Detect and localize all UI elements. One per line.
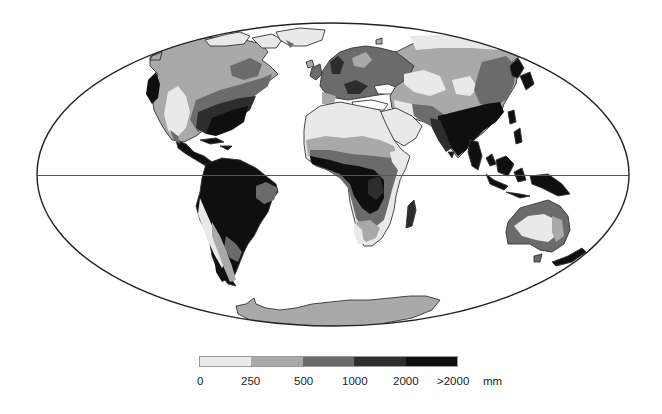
legend-swatch-0-250 <box>200 357 251 366</box>
north-america <box>146 28 325 142</box>
legend-tick-label: >2000 <box>437 375 469 387</box>
legend-tick-label: 500 <box>294 375 313 387</box>
legend-swatch-250-500 <box>251 357 302 366</box>
legend-tick-label: 1000 <box>342 375 368 387</box>
australia <box>506 200 586 266</box>
precipitation-legend <box>199 356 458 367</box>
legend-unit: mm <box>483 375 502 387</box>
legend-swatch-500-1000 <box>303 357 354 366</box>
world-precipitation-map <box>0 0 662 340</box>
legend-tick-label: 0 <box>197 375 203 387</box>
south-america <box>196 158 278 286</box>
legend-swatch-1000-2000 <box>354 357 405 366</box>
legend-swatch-over-2000 <box>406 357 457 366</box>
antarctica <box>236 296 440 328</box>
legend-tick-label: 250 <box>241 375 260 387</box>
legend-tick-label: 2000 <box>393 375 419 387</box>
